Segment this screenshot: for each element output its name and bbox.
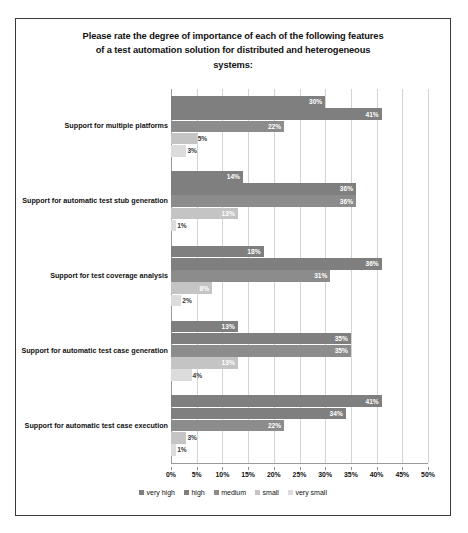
legend-item[interactable]: very small — [288, 489, 327, 496]
legend-label: medium — [221, 489, 246, 496]
bar-value-label: 18% — [247, 248, 263, 255]
legend-label: very small — [295, 489, 327, 496]
bar-fill: 35% — [171, 345, 351, 357]
bar-group: 14%36%36%13%1% — [171, 164, 428, 239]
legend-label: high — [191, 489, 204, 496]
bar-value-label: 5% — [197, 135, 208, 142]
bar[interactable]: 3% — [171, 432, 186, 444]
legend-label: small — [263, 489, 279, 496]
x-tick-label: 50% — [421, 471, 435, 478]
bar-value-label: 3% — [186, 147, 197, 154]
bar-group: 18%36%31%8%2% — [171, 239, 428, 314]
x-tick-label: 30% — [318, 471, 332, 478]
legend-item[interactable]: small — [255, 489, 279, 496]
x-tick-mark — [351, 467, 352, 470]
bar[interactable]: 14% — [171, 171, 243, 183]
bar[interactable]: 22% — [171, 420, 284, 432]
bar[interactable]: 34% — [171, 408, 346, 420]
bar-fill: 14% — [171, 171, 243, 183]
bar-fill: 41% — [171, 395, 382, 407]
x-tick-mark — [325, 467, 326, 470]
bar-fill — [171, 145, 186, 157]
bar[interactable]: 36% — [171, 258, 382, 270]
bar[interactable]: 22% — [171, 121, 284, 133]
bar[interactable]: 18% — [171, 246, 264, 258]
bar[interactable]: 1% — [171, 220, 176, 232]
bar[interactable]: 41% — [171, 108, 382, 120]
bar-value-label: 1% — [176, 222, 187, 229]
bar-value-label: 36% — [340, 185, 356, 192]
bar-value-label: 31% — [314, 272, 330, 279]
bar-fill — [171, 295, 181, 307]
bar[interactable]: 3% — [171, 145, 186, 157]
bar-fill: 30% — [171, 96, 325, 108]
bar-fill — [171, 369, 192, 381]
x-tick-mark — [197, 467, 198, 470]
bar-value-label: 34% — [330, 410, 346, 417]
bar[interactable]: 5% — [171, 133, 197, 145]
chart-title-line: systems: — [30, 58, 436, 72]
category-label: Support for test coverage analysis — [18, 271, 168, 280]
bar[interactable]: 35% — [171, 345, 351, 357]
bar-value-label: 36% — [340, 198, 356, 205]
gridline — [428, 89, 429, 463]
x-tick-label: 40% — [370, 471, 384, 478]
chart-legend: very highhighmediumsmallvery small — [16, 489, 450, 496]
x-tick-label: 5% — [192, 471, 202, 478]
legend-swatch-icon — [255, 490, 260, 495]
legend-item[interactable]: high — [184, 489, 205, 496]
bar[interactable]: 13% — [171, 357, 238, 369]
bar-value-label: 4% — [192, 372, 203, 379]
bar-fill: 8% — [171, 282, 212, 294]
x-tick-label: 15% — [241, 471, 255, 478]
bar-fill: 36% — [171, 258, 382, 270]
bar[interactable]: 30% — [171, 96, 325, 108]
bar-value-label: 8% — [200, 285, 213, 292]
category-label: Support for automatic test case generati… — [18, 346, 168, 355]
chart-title-line: of a test automation solution for distri… — [30, 43, 436, 57]
bar-fill: 13% — [171, 357, 238, 369]
legend-label: very high — [147, 489, 175, 496]
category-label: Support for automatic test stub generati… — [18, 196, 168, 205]
bar-fill: 41% — [171, 108, 382, 120]
x-tick-label: 25% — [293, 471, 307, 478]
bar[interactable]: 13% — [171, 208, 238, 220]
bar[interactable]: 4% — [171, 369, 192, 381]
bar[interactable]: 8% — [171, 282, 212, 294]
legend-swatch-icon — [288, 490, 293, 495]
bar-value-label: 14% — [227, 173, 243, 180]
chart-title-line: Please rate the degree of importance of … — [30, 29, 436, 43]
bar-value-label: 36% — [366, 260, 382, 267]
x-tick-mark — [222, 467, 223, 470]
bar-fill — [171, 133, 197, 145]
bar-fill: 34% — [171, 408, 346, 420]
bar-value-label: 22% — [268, 422, 284, 429]
x-tick-label: 10% — [215, 471, 229, 478]
category-label: Support for automatic test case executio… — [18, 421, 168, 430]
bar-value-label: 30% — [309, 98, 325, 105]
bar[interactable]: 41% — [171, 395, 382, 407]
bar-value-label: 13% — [222, 359, 238, 366]
bar[interactable]: 35% — [171, 333, 351, 345]
x-tick-label: 35% — [344, 471, 358, 478]
bar[interactable]: 31% — [171, 270, 330, 282]
x-tick-mark — [274, 467, 275, 470]
bar-fill: 36% — [171, 183, 356, 195]
bar-value-label: 3% — [186, 434, 197, 441]
legend-item[interactable]: very high — [139, 489, 175, 496]
chart-frame: Please rate the degree of importance of … — [15, 18, 451, 516]
bar-fill: 36% — [171, 195, 356, 207]
bar-group: 30%41%22%5%3% — [171, 89, 428, 164]
x-tick-label: 20% — [267, 471, 281, 478]
bar[interactable]: 2% — [171, 295, 181, 307]
x-tick-mark — [248, 467, 249, 470]
bar[interactable]: 13% — [171, 321, 238, 333]
bar[interactable]: 36% — [171, 183, 356, 195]
legend-item[interactable]: medium — [214, 489, 246, 496]
bar[interactable]: 36% — [171, 195, 356, 207]
bar-fill: 35% — [171, 333, 351, 345]
bar[interactable]: 1% — [171, 444, 176, 456]
x-tick-label: 45% — [395, 471, 409, 478]
bar-value-label: 2% — [181, 297, 192, 304]
bar-fill: 13% — [171, 208, 238, 220]
